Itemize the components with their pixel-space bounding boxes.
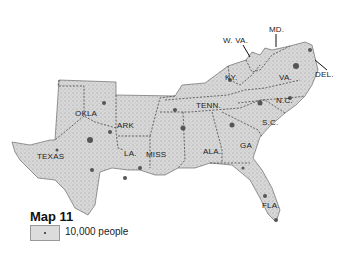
- state-label-arkansas: ARK: [117, 121, 134, 130]
- state-label-virginia: VA.: [279, 73, 292, 82]
- state-label-oklahoma: OKLA: [75, 109, 97, 118]
- callout-label-west-virginia: W. VA.: [223, 36, 248, 45]
- state-label-south-carolina: S.C.: [262, 118, 278, 127]
- state-label-georgia: GA: [240, 141, 252, 150]
- map-title: Map 11: [30, 209, 73, 224]
- dot-icon: [44, 232, 46, 234]
- state-label-tennessee: TENN.: [196, 101, 221, 110]
- map-figure: TEXAS OKLA ARK LA. MISS ALA. GA TENN. KY…: [0, 0, 355, 255]
- callout-label-maryland: MD.: [269, 25, 284, 34]
- legend-label: 10,000 people: [65, 226, 128, 237]
- state-label-louisiana: LA.: [124, 149, 137, 158]
- state-label-north-carolina: N.C.: [276, 96, 293, 105]
- state-label-mississippi: MISS: [146, 150, 166, 159]
- state-label-alabama: ALA.: [203, 147, 221, 156]
- southern-states-landmass: [12, 42, 318, 222]
- state-label-florida: FLA.: [262, 201, 280, 210]
- state-label-kentucky: KY.: [225, 73, 237, 82]
- legend-swatch: [30, 225, 60, 241]
- callout-label-delaware: DEL.: [315, 70, 334, 79]
- state-label-texas: TEXAS: [37, 152, 64, 161]
